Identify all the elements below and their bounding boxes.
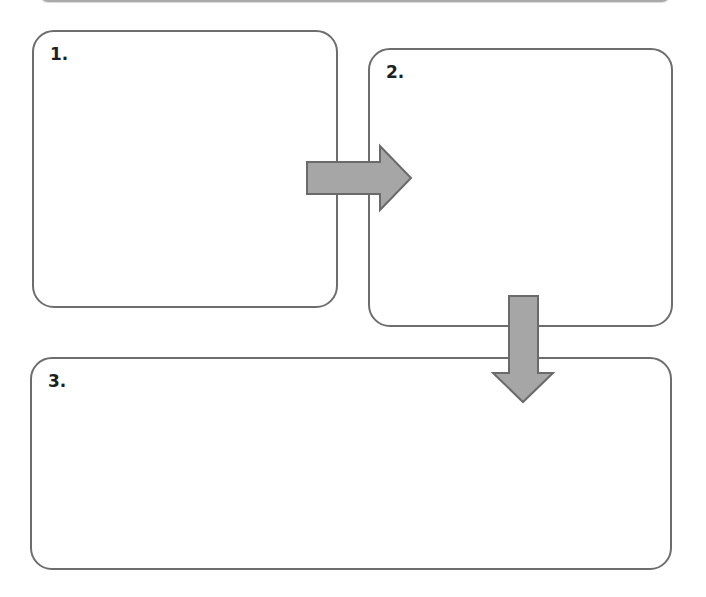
- arrow-down-icon: [0, 0, 706, 597]
